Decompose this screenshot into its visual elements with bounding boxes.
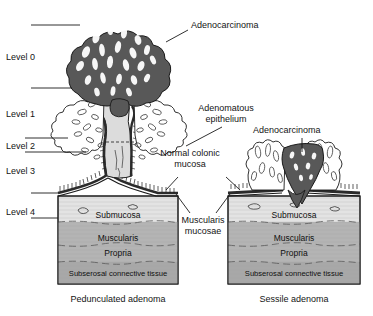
left-subserosa-label: Subserosal connective tissue [58, 269, 178, 278]
right-submucosa-label: Submucosa [228, 210, 360, 220]
level-2-label: Level 2 [6, 141, 35, 152]
normal-colonic-mucosa-label: Normal colonic mucosa [152, 148, 228, 169]
adenomatous-epithelium-label: Adenomatous epithelium [186, 103, 266, 124]
left-panel-caption: Pedunculated adenoma [58, 294, 178, 305]
left-propria-label: Propria [58, 248, 178, 258]
level-0-label: Level 0 [6, 52, 35, 63]
right-propria-label: Propria [228, 248, 360, 258]
right-muscularis-label: Muscularis [228, 233, 360, 243]
adenocarcinoma-right-label: Adenocarcinoma [253, 125, 321, 136]
right-panel-caption: Sessile adenoma [228, 294, 360, 305]
left-muscularis-label: Muscularis [58, 233, 178, 243]
left-submucosa-label: Submucosa [58, 210, 178, 220]
level-1-label: Level 1 [6, 109, 35, 120]
haggitt-levels-figure: Level 0 Level 1 Level 2 Level 3 Level 4 … [0, 0, 373, 316]
level-3-label: Level 3 [6, 166, 35, 177]
right-subserosa-label: Subserosal connective tissue [228, 269, 360, 278]
adenocarcinoma-left-label: Adenocarcinoma [191, 20, 259, 31]
level-4-label: Level 4 [6, 207, 35, 218]
